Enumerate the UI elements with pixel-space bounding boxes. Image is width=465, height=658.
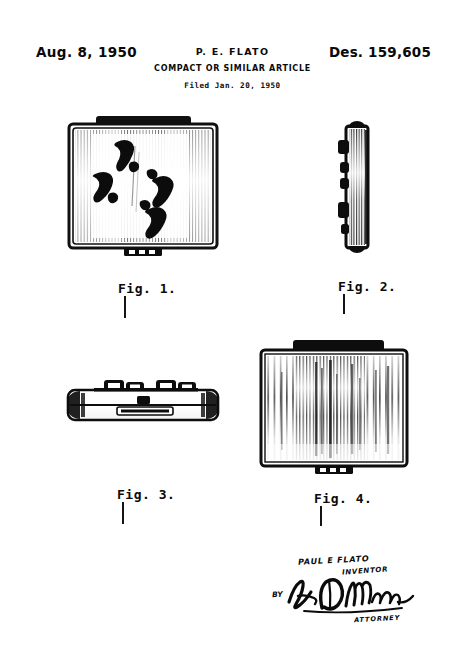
figure-3-hinge-knuckles [94,380,198,392]
filing-date: Filed Jan. 20, 1950 [0,81,465,90]
figure-1-label: Fig. 1. [118,281,176,296]
attorney-handwritten-signature [284,574,419,618]
clasp-tab [124,248,162,256]
signature-block: PAUL E FLATO INVENTOR BY [270,552,430,632]
header-center-block: P. E. FLATO COMPACT OR SIMILAR ARTICLE F… [0,46,465,90]
figure-1-drawing [62,112,237,262]
figure-2-lead-line [343,294,345,314]
attorney-caption: ATTORNEY [354,614,401,624]
figure-2-label: Fig. 2. [338,279,396,294]
patent-drawing-page: Aug. 8, 1950 Des. 159,605 P. E. FLATO CO… [0,0,465,658]
figure-3-lead-line [122,502,124,524]
figure-4-lead-line [320,506,322,526]
figure-4-drawing [255,338,415,478]
patent-title: COMPACT OR SIMILAR ARTICLE [0,64,465,73]
figure-4-label: Fig. 4. [314,491,372,506]
figure-3-label: Fig. 3. [117,487,175,502]
figure-1-lead-line [124,296,126,318]
figure-2-drawing [330,118,390,258]
by-label: BY [272,590,283,600]
inventor-header: P. E. FLATO [0,46,465,57]
figure-4-clasp-tab [315,466,353,474]
clasp-slot [117,407,173,415]
thumb-piece [137,396,150,404]
inventor-signature-name: PAUL E FLATO [298,554,370,567]
figure-3-drawing [64,374,224,436]
